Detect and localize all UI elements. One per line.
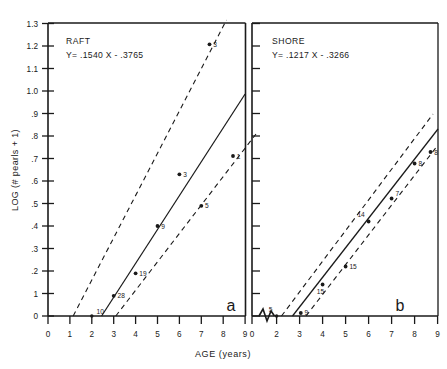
data-point [367,220,371,224]
y-tick-label: .2 [31,267,38,276]
data-point [321,283,325,287]
x-tick-label: 6 [177,330,182,339]
x-tick-label: 5 [155,330,160,339]
panel-b: 0 2 3 4 5 6 7 8 9 5 9 15 [250,23,441,339]
data-point [429,150,433,154]
data-point-label: 15 [349,263,357,270]
panel-a-fit-line [102,94,246,316]
x-tick-label: 8 [221,330,226,339]
y-axis-title: LOG (# pearls + 1) [10,129,20,211]
y-tick-label: 1.0 [27,87,39,96]
panel-a-letter: a [227,297,236,314]
data-point [390,197,394,201]
panel-b-points: 5 9 15 15 14 7 8 8 [269,149,438,318]
x-tick-label: 3 [297,330,302,339]
panel-b-y-ticks [252,24,260,317]
y-tick-label: .5 [31,200,38,209]
panel-a-equation: Y= .1540 X - .3765 [66,50,143,60]
x-tick-label: 1 [68,330,73,339]
data-point [112,294,116,298]
panel-b-letter: b [396,297,405,314]
x-tick-label: 4 [133,330,138,339]
data-point [199,204,203,208]
data-point [134,271,138,275]
chart-svg: 0 1 .2 .3 .4 .5 .6 .7 .8 .9 1.0 1.1 1.2 … [0,0,447,369]
y-tick-label: .9 [31,110,38,119]
data-point-label: 3 [213,41,217,48]
x-tick-label: 9 [243,330,248,339]
data-point-label: 1 [237,153,241,160]
x-tick-label: 9 [435,330,440,339]
x-tick-label: 0 [250,330,255,339]
panel-a-points: 10 28 19 9 3 5 3 1 [90,41,241,318]
panel-a-x-ticks [48,316,245,324]
data-point-label: 8 [434,149,438,156]
panel-a-x-tick-labels: 0 1 2 3 4 5 6 7 8 9 [46,330,248,339]
panel-a-y-tick-labels: 0 1 .2 .3 .4 .5 .6 .7 .8 .9 1.0 1.1 1.2 … [27,20,39,322]
y-tick-label: .4 [31,222,38,231]
panel-a-ci-lower [116,134,256,316]
y-tick-label: .7 [31,155,38,164]
x-tick-label: 8 [412,330,417,339]
data-point [156,224,160,228]
x-tick-label: 0 [46,330,51,339]
data-point-label: 8 [418,160,422,167]
data-point-label: 5 [205,202,209,209]
data-point-label: 15 [317,288,325,295]
figure-container: 0 1 .2 .3 .4 .5 .6 .7 .8 .9 1.0 1.1 1.2 … [0,0,447,369]
y-tick-label: 1.1 [27,65,39,74]
y-tick-label: 1 [33,290,38,299]
x-tick-label: 7 [199,330,204,339]
y-tick-label: 1.2 [27,42,39,51]
x-tick-label: 3 [111,330,116,339]
y-tick-label: .3 [31,245,38,254]
panel-b-x-tick-labels: 0 2 3 4 5 6 7 8 9 [250,330,441,339]
y-tick-label: .8 [31,132,38,141]
x-tick-label: 5 [343,330,348,339]
x-tick-label: 2 [90,330,95,339]
panel-a: 0 1 .2 .3 .4 .5 .6 .7 .8 .9 1.0 1.1 1.2 … [27,20,256,340]
data-point-label: 3 [183,171,187,178]
data-point-label: 28 [118,292,126,299]
panel-a-title: RAFT [66,36,91,46]
x-tick-label: 4 [320,330,325,339]
data-point [90,314,93,317]
x-tick-label: 6 [366,330,371,339]
data-point [413,162,417,166]
panel-b-title: SHORE [272,36,305,46]
data-point [208,42,212,46]
data-point [299,311,303,315]
data-point [178,172,182,176]
data-point-label: 10 [97,308,105,315]
data-point-label: 9 [161,223,165,230]
data-point-label: 7 [395,190,399,197]
data-point-label: 19 [139,270,147,277]
y-tick-label: .6 [31,177,38,186]
x-tick-label: 2 [274,330,279,339]
x-axis-title: AGE (years) [195,349,251,359]
panel-b-ci-lower [306,145,438,316]
data-point [231,154,235,158]
data-point-label: 9 [305,309,309,316]
y-tick-label: 0 [33,312,38,321]
panel-b-x-ticks [252,316,438,324]
data-point-label: 5 [269,306,273,313]
data-point [344,265,348,269]
panel-b-fit-line [293,129,439,316]
y-tick-label: 1.3 [27,20,39,29]
x-tick-label: 7 [389,330,394,339]
data-point-label: 14 [357,211,365,218]
data-point [275,314,278,317]
panel-b-equation: Y= .1217 X - .3266 [272,50,349,60]
